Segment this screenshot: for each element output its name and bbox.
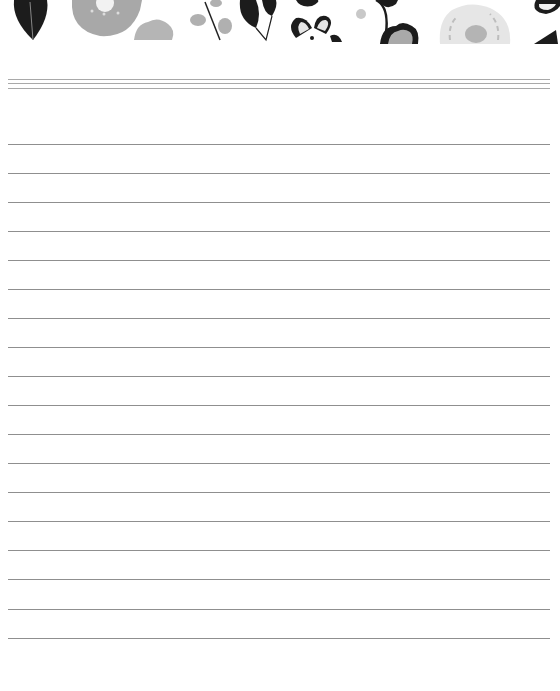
floral-pattern-icon: [0, 0, 560, 44]
writing-line: [8, 638, 550, 639]
writing-line: [8, 579, 550, 580]
writing-line: [8, 144, 550, 145]
writing-line: [8, 173, 550, 174]
writing-line: [8, 202, 550, 203]
writing-line: [8, 434, 550, 435]
writing-line: [8, 289, 550, 290]
header-rule-1: [8, 79, 550, 80]
header-rule-2: [8, 83, 550, 84]
header-rule-3: [8, 88, 550, 89]
writing-line: [8, 463, 550, 464]
writing-line: [8, 521, 550, 522]
writing-line: [8, 492, 550, 493]
writing-line: [8, 260, 550, 261]
writing-line: [8, 231, 550, 232]
writing-line: [8, 347, 550, 348]
writing-line: [8, 318, 550, 319]
writing-line: [8, 376, 550, 377]
writing-line: [8, 609, 550, 610]
floral-header-banner: [0, 0, 560, 44]
writing-line: [8, 405, 550, 406]
writing-line: [8, 550, 550, 551]
